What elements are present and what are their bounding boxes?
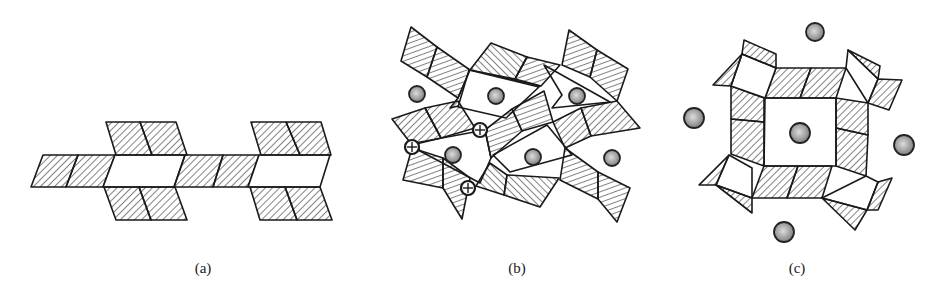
cation-sphere [409,86,425,102]
panel-b: (b) [392,27,640,277]
panel-label-a: (a) [195,260,212,277]
ring-opening [248,155,330,187]
cation-sphere [806,23,824,41]
cation-sphere [569,88,585,104]
cation-sphere [488,88,504,104]
cation-sphere [684,108,704,128]
shared-atom-icon [461,181,475,195]
cation-sphere [525,149,541,165]
cation-sphere [774,222,794,242]
shared-atom-icon [405,140,419,154]
cation-sphere [894,135,914,155]
cation-sphere [604,150,620,166]
polyhedron [598,172,630,222]
polyhedron [581,101,640,136]
panel-c: (c) [684,23,914,277]
panel-label-b: (b) [508,260,526,277]
polyhedron [560,148,598,199]
crystal-structure-figure: (a) [0,0,943,295]
polyhedron [836,128,868,176]
shared-atom-icon [473,123,487,137]
panel-label-c: (c) [789,260,806,277]
panel-a: (a) [31,122,332,277]
cation-sphere [790,123,810,143]
polyhedron [504,175,559,207]
cation-sphere [445,147,461,163]
ring-opening [103,155,185,187]
